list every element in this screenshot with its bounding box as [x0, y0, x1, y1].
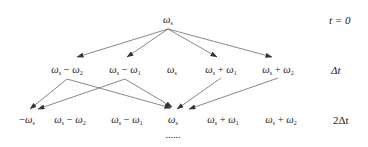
node-omega-s-plus-omega1: ωs + ω1 [205, 64, 236, 79]
node-omega-s-l2: ωs [168, 114, 178, 129]
edge [177, 78, 221, 109]
node-omega-s-minus-omega1-l2: ωs − ω1 [111, 114, 142, 129]
edge [30, 79, 67, 109]
node-omega-s-plus-omega2: ωs + ω2 [262, 64, 293, 79]
time-label-dt: Δt [331, 64, 341, 76]
time-label-2dt: 2Δt [333, 114, 349, 126]
node-omega-s-plus-omega1-l2: ωs + ω1 [207, 114, 238, 129]
node-omega-s-root: ωs [163, 14, 173, 29]
node-omega-s-minus-omega1: ωs − ω1 [109, 64, 140, 79]
edge [168, 29, 217, 57]
node-omega-s-minus-omega2: ωs − ω2 [51, 64, 82, 79]
edge [127, 29, 168, 57]
node-omega-s-plus-omega2-l2: ωs + ω2 [265, 114, 296, 129]
edge [168, 29, 272, 57]
node-omega-s-minus-omega2-l2: ωs − ω2 [54, 114, 85, 129]
node-omega-s: ωs [167, 64, 177, 79]
edge [38, 79, 125, 109]
time-label-t0: t = 0 [329, 14, 350, 26]
edge [77, 29, 168, 57]
continuation-ellipsis: ...... [166, 130, 181, 140]
edge [189, 78, 278, 109]
edge [125, 79, 172, 107]
node-neg-omega-s: −ωs [19, 114, 35, 129]
frequency-tree-diagram: ωs t = 0 ωs − ω2 ωs − ω1 ωs ωs + ω1 ωs +… [0, 0, 368, 147]
